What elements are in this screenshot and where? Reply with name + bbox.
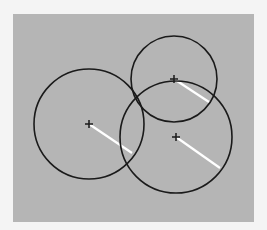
gray-panel: [13, 14, 254, 222]
diagram-canvas: [0, 0, 267, 230]
